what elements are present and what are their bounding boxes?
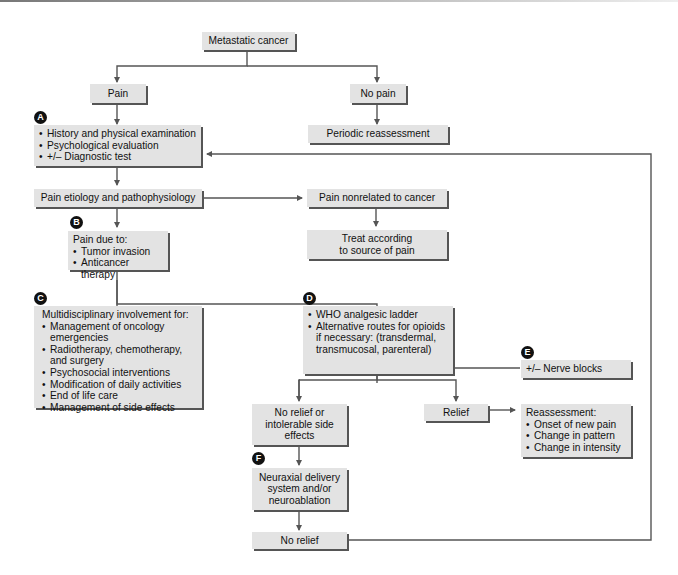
node-nerve-blocks: +/– Nerve blocks [521, 360, 631, 378]
node-pain-nonrelated: Pain nonrelated to cancer [307, 189, 447, 207]
badge-f-icon: F [252, 452, 265, 465]
list-item: Psychosocial interventions [42, 367, 197, 379]
node-label: No pain [360, 88, 395, 100]
node-label: Pain etiology and pathophysiology [41, 192, 196, 204]
node-label: Metastatic cancer [209, 35, 289, 47]
node-heading: Reassessment: [526, 407, 626, 419]
node-label: No relief [281, 535, 319, 547]
node-who-ladder: WHO analgesic ladder Alternative routes … [303, 306, 453, 374]
badge-d-icon: D [303, 292, 316, 305]
list-item: Management of oncology emergencies [42, 321, 197, 344]
badge-b-icon: B [70, 216, 83, 229]
node-no-relief-side-effects: No relief or intolerable side effects [252, 404, 347, 445]
list-item: History and physical examination [39, 128, 196, 140]
node-label: to source of pain [339, 245, 414, 257]
list-item: Change in pattern [526, 430, 626, 442]
pain-due-list: Tumor invasion Anticancer therapy [73, 246, 163, 281]
node-label: Pain [108, 88, 128, 100]
badge-a-icon: A [34, 111, 47, 124]
multidisciplinary-list: Management of oncology emergencies Radio… [42, 321, 197, 414]
list-item: WHO analgesic ladder [308, 309, 448, 321]
node-label: No relief or [275, 407, 325, 419]
node-pain: Pain [90, 84, 146, 103]
node-reassessment: Reassessment: Onset of new pain Change i… [521, 404, 631, 457]
list-item: Modification of daily activities [42, 379, 197, 391]
reassessment-list: Onset of new pain Change in pattern Chan… [526, 419, 626, 454]
badge-c-icon: C [34, 292, 47, 305]
node-label: Treat according [342, 233, 412, 245]
who-list: WHO analgesic ladder Alternative routes … [308, 309, 448, 355]
node-heading: Pain due to: [73, 234, 163, 246]
node-relief: Relief [424, 404, 488, 421]
list-item: End of life care [42, 390, 197, 402]
node-pain-etiology: Pain etiology and pathophysiology [34, 189, 202, 207]
list-item: Alternative routes for opioids if necess… [308, 321, 448, 356]
node-label: Relief [443, 407, 469, 419]
node-heading: Multidisciplinary involvement for: [42, 309, 197, 321]
node-label: Pain nonrelated to cancer [319, 192, 435, 204]
node-label: +/– Nerve blocks [526, 363, 602, 374]
node-no-relief: No relief [252, 532, 347, 549]
node-no-pain: No pain [350, 84, 406, 103]
node-label: Neuraxial delivery [259, 472, 340, 484]
node-periodic-reassessment: Periodic reassessment [308, 125, 448, 143]
node-label: intolerable side [265, 419, 334, 431]
node-label: system and/or [268, 483, 332, 495]
list-item: Anticancer therapy [73, 257, 163, 280]
list-item: Management of side effects [42, 402, 197, 414]
list-item: Radiotherapy, chemotherapy, and surgery [42, 344, 197, 367]
badge-e-icon: E [521, 346, 534, 359]
node-treat-source: Treat according to source of pain [307, 230, 447, 259]
list-item: Change in intensity [526, 442, 626, 454]
list-item: +/– Diagnostic test [39, 151, 196, 163]
node-multidisciplinary: Multidisciplinary involvement for: Manag… [34, 306, 202, 408]
node-label: effects [285, 430, 315, 442]
node-pain-due-to: Pain due to: Tumor invasion Anticancer t… [68, 231, 168, 270]
assessment-list: History and physical examination Psychol… [39, 128, 196, 163]
list-item: Tumor invasion [73, 246, 163, 258]
node-neuraxial: Neuraxial delivery system and/or neuroab… [252, 468, 347, 510]
list-item: Onset of new pain [526, 419, 626, 431]
list-item: Psychological evaluation [39, 140, 196, 152]
node-label: neuroablation [269, 495, 331, 507]
node-label: Periodic reassessment [326, 128, 429, 140]
node-assessment: History and physical examination Psychol… [34, 125, 201, 166]
node-metastatic-cancer: Metastatic cancer [202, 32, 295, 50]
